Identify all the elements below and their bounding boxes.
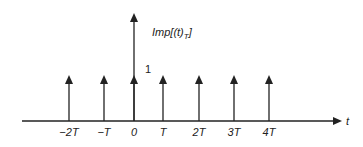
impulse-arrowhead-icon (65, 75, 73, 84)
vertical-axis-arrowhead-icon (130, 13, 138, 22)
impulse-arrowhead-icon (265, 75, 273, 84)
axis-arrowhead-icon (333, 117, 342, 125)
tick-label: 4T (263, 126, 276, 138)
tick-label: T (160, 126, 167, 138)
tick-label: 3T (228, 126, 241, 138)
impulse-group (65, 75, 273, 121)
tick-label: −T (97, 126, 110, 138)
impulse-train-diagram (0, 0, 363, 147)
tick-label: 0 (131, 126, 137, 138)
amplitude-label: 1 (145, 63, 151, 75)
axis-label-t: t (346, 115, 349, 127)
impulse-arrowhead-icon (100, 75, 108, 84)
impulse-arrowhead-icon (130, 75, 138, 84)
function-label: Imp[(t)T] (152, 26, 192, 41)
impulse-arrowhead-icon (159, 75, 167, 84)
impulse-arrowhead-icon (195, 75, 203, 84)
tick-label: −2T (59, 126, 78, 138)
impulse-arrowhead-icon (230, 75, 238, 84)
tick-label: 2T (193, 126, 206, 138)
